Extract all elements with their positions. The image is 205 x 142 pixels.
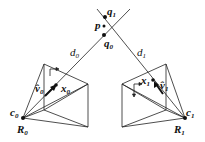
- point-x1: [151, 78, 155, 82]
- label-c1: c1: [186, 106, 194, 120]
- point-p: [103, 25, 106, 28]
- label-R1: R1: [173, 123, 185, 137]
- label-c0: c0: [10, 106, 19, 120]
- label-p: p: [94, 19, 101, 31]
- label-R0: R0: [16, 123, 28, 137]
- ray-0: [23, 9, 130, 118]
- points: [21, 15, 187, 120]
- point-x0: [54, 83, 58, 87]
- label-d1: d1: [137, 46, 146, 60]
- ray-1: [97, 9, 185, 118]
- label-d0: d0: [70, 46, 80, 60]
- label-x1: x1: [140, 74, 150, 88]
- left-image-axes-icon: [50, 68, 59, 77]
- label-v0: v̂0: [35, 82, 44, 96]
- right-camera-frustum: [122, 64, 185, 127]
- triangulation-diagram: q1 p q0 d0 d1 x0 x1 v̂0 v̂1 c0 c1 R0 R1: [0, 0, 205, 142]
- left-camera-frustum: [23, 64, 88, 127]
- point-c0: [21, 116, 25, 120]
- label-q1: q1: [107, 5, 116, 19]
- label-x0: x0: [60, 82, 71, 96]
- label-v1: v̂1: [160, 79, 168, 93]
- label-q0: q0: [104, 37, 114, 51]
